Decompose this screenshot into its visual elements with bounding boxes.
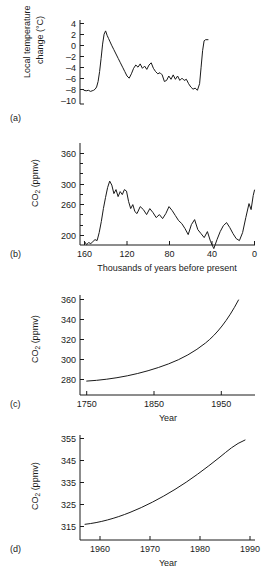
panel-a-yticklabels: 4 2 0 –2 –4 –6 –8 –10	[61, 19, 76, 106]
panel-d-axis	[80, 435, 255, 540]
panel-b: CO2 (ppmv) 360 300 260 200	[0, 135, 278, 275]
xtick-label: 1970	[140, 544, 160, 554]
panel-a-dataline	[84, 31, 208, 92]
panel-d-ylabel: CO2 (ppmv)	[30, 462, 41, 510]
panel-d-xlabel: Year	[159, 558, 177, 568]
panel-b-ylabel: CO2 (ppmv)	[30, 159, 41, 207]
ytick-label: 4	[71, 19, 76, 29]
xtick-label: 1750	[77, 399, 97, 409]
ytick-label: –8	[66, 85, 76, 95]
ytick-label: –4	[66, 63, 76, 73]
panel-d-ylabel: CO2 (ppmv)	[30, 462, 41, 510]
xtick-label: 120	[119, 249, 134, 259]
panel-a: Local temperature change (°C) 4 2 0 –2 –…	[0, 0, 278, 135]
xtick-label: 0	[252, 249, 257, 259]
xtick-label: 40	[207, 249, 217, 259]
panel-b-letter: (b)	[10, 249, 21, 259]
panel-c-plot: CO2 (ppmv) 360 340 320 300 280	[0, 285, 278, 425]
panel-b-yticklabels: 360 300 260 200	[61, 149, 76, 241]
ytick-label: –6	[66, 74, 76, 84]
climate-figure: Local temperature change (°C) 4 2 0 –2 –…	[0, 0, 278, 580]
ytick-label: 2	[71, 30, 76, 40]
panel-d-yticklabels: 355 345 335 325 315	[61, 434, 76, 532]
panel-b-plot: CO2 (ppmv) 360 300 260 200	[0, 135, 278, 275]
ytick-label: 200	[61, 231, 76, 241]
ytick-label: 360	[61, 295, 76, 305]
panel-c-ylabel: CO2 (ppmv)	[30, 315, 41, 363]
xtick-label: 1850	[144, 399, 164, 409]
ytick-label: 340	[61, 315, 76, 325]
xtick-label: 1980	[190, 544, 210, 554]
ytick-label: 300	[61, 180, 76, 190]
panel-d: CO2 (ppmv) 355 345 335 325 315	[0, 430, 278, 575]
panel-b-xlabel: Thousands of years before present	[97, 263, 237, 273]
ytick-label: 320	[61, 335, 76, 345]
panel-d-xticklabels: 1960 1970 1980 1990	[90, 544, 260, 554]
ytick-label: 315	[61, 522, 76, 532]
panel-d-dataline	[85, 440, 245, 524]
panel-d-plot: CO2 (ppmv) 355 345 335 325 315	[0, 430, 278, 575]
panel-b-ylabel: CO2 (ppmv)	[30, 159, 41, 207]
panel-a-axis	[80, 20, 84, 104]
ytick-label: –2	[66, 52, 76, 62]
ytick-label: 325	[61, 500, 76, 510]
ytick-label: 335	[61, 478, 76, 488]
ytick-label: 260	[61, 200, 76, 210]
panel-c-yticklabels: 360 340 320 300 280	[61, 295, 76, 385]
panel-c-xlabel: Year	[159, 413, 177, 423]
xtick-label: 1990	[240, 544, 260, 554]
ytick-label: –10	[61, 96, 76, 106]
panel-a-ylabel: Local temperature change (°C)	[22, 5, 45, 78]
panel-c-ylabel: CO2 (ppmv)	[30, 315, 41, 363]
xtick-label: 160	[77, 249, 92, 259]
ytick-label: 280	[61, 375, 76, 385]
ytick-label: 355	[61, 434, 76, 444]
panel-a-letter: (a)	[10, 113, 21, 123]
panel-c: CO2 (ppmv) 360 340 320 300 280	[0, 285, 278, 425]
panel-a-ylabel-line2: change (°C)	[35, 16, 45, 64]
panel-a-ylabel-line1: Local temperature	[22, 5, 32, 78]
panel-c-dataline	[87, 300, 239, 381]
ytick-label: 345	[61, 456, 76, 466]
ytick-label: 0	[71, 41, 76, 51]
xtick-label: 1950	[211, 399, 231, 409]
xtick-label: 1960	[90, 544, 110, 554]
panel-c-letter: (c)	[10, 399, 21, 409]
panel-b-xticklabels: 160 120 80 40 0	[77, 249, 257, 259]
ytick-label: 360	[61, 149, 76, 159]
panel-b-dataline	[85, 181, 255, 249]
panel-a-plot: Local temperature change (°C) 4 2 0 –2 –…	[0, 0, 278, 135]
panel-c-xticklabels: 1750 1850 1950	[77, 399, 232, 409]
panel-d-letter: (d)	[10, 544, 21, 554]
panel-c-axis	[80, 295, 255, 395]
ytick-label: 300	[61, 355, 76, 365]
xtick-label: 80	[164, 249, 174, 259]
